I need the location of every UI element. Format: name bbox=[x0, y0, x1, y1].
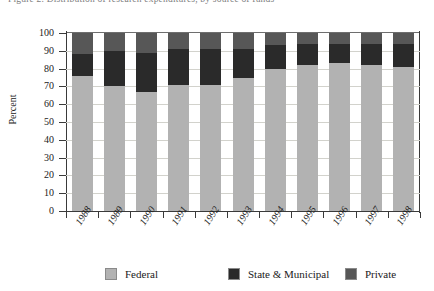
y-axis-tick-mark bbox=[59, 158, 66, 159]
bar-1994 bbox=[265, 33, 286, 211]
bar-segment-state bbox=[393, 44, 414, 67]
bar-segment-state bbox=[297, 44, 318, 65]
legend-item-federal[interactable]: Federal bbox=[105, 266, 158, 282]
bar-segment-state bbox=[200, 49, 221, 85]
bar-segment-private bbox=[297, 33, 318, 44]
x-axis-tick-mark bbox=[195, 212, 196, 218]
bar-segment-private bbox=[72, 33, 93, 54]
y-axis-tick-label: 100 bbox=[28, 28, 54, 38]
y-axis-tick-mark bbox=[59, 104, 66, 105]
legend-swatch-private-icon bbox=[345, 268, 357, 280]
bar-segment-state bbox=[168, 49, 189, 85]
x-axis-tick-mark bbox=[420, 212, 421, 218]
bar-segment-private bbox=[233, 33, 254, 49]
bar-segment-private bbox=[136, 33, 157, 53]
bar-segment-private bbox=[200, 33, 221, 49]
bar-1996 bbox=[329, 33, 350, 211]
bar-segment-federal bbox=[200, 85, 221, 211]
bar-segment-federal bbox=[361, 65, 382, 211]
bar-1998 bbox=[393, 33, 414, 211]
bar-segment-state bbox=[361, 44, 382, 65]
y-axis-tick-mark bbox=[59, 175, 66, 176]
legend-swatch-federal-icon bbox=[105, 268, 117, 280]
x-axis-tick-mark bbox=[356, 212, 357, 218]
y-axis-tick-label: 70 bbox=[28, 81, 54, 91]
plot-area bbox=[66, 33, 420, 211]
x-axis-tick-mark bbox=[130, 212, 131, 218]
bar-1997 bbox=[361, 33, 382, 211]
legend-label: Federal bbox=[125, 268, 158, 280]
x-axis-tick-mark bbox=[163, 212, 164, 218]
y-axis-tick-label: 40 bbox=[28, 135, 54, 145]
legend-label: State & Municipal bbox=[248, 268, 329, 280]
bar-segment-private bbox=[168, 33, 189, 49]
bar-segment-state bbox=[104, 51, 125, 87]
bar-segment-state bbox=[329, 44, 350, 64]
y-axis-tick-label: 60 bbox=[28, 99, 54, 109]
bar-segment-private bbox=[361, 33, 382, 44]
bar-1991 bbox=[168, 33, 189, 211]
bar-segment-private bbox=[265, 33, 286, 45]
bar-segment-federal bbox=[233, 78, 254, 212]
y-axis-tick-mark bbox=[59, 69, 66, 70]
x-axis-tick-mark bbox=[388, 212, 389, 218]
y-axis-tick-labels: 0102030405060708090100 bbox=[28, 0, 54, 291]
legend-swatch-state-icon bbox=[228, 268, 240, 280]
bar-segment-federal bbox=[168, 85, 189, 211]
bar-segment-federal bbox=[265, 69, 286, 211]
figure-container: Figure 2. Distribution of research expen… bbox=[0, 0, 434, 291]
bar-segment-state bbox=[233, 49, 254, 77]
legend-item-private[interactable]: Private bbox=[345, 266, 396, 282]
y-axis-tick-mark bbox=[59, 51, 66, 52]
y-axis-tick-label: 20 bbox=[28, 170, 54, 180]
bar-1988 bbox=[72, 33, 93, 211]
bar-1995 bbox=[297, 33, 318, 211]
bar-segment-private bbox=[329, 33, 350, 44]
bar-segment-federal bbox=[136, 92, 157, 211]
bar-segment-federal bbox=[329, 63, 350, 211]
y-axis-tick-mark bbox=[59, 140, 66, 141]
x-axis-tick-mark bbox=[259, 212, 260, 218]
y-axis-tick-mark bbox=[59, 86, 66, 87]
legend-label: Private bbox=[365, 268, 396, 280]
y-axis-tick-mark bbox=[59, 193, 66, 194]
bar-segment-federal bbox=[393, 67, 414, 211]
bar-segment-private bbox=[393, 33, 414, 44]
legend-item-state[interactable]: State & Municipal bbox=[228, 266, 329, 282]
bar-segment-federal bbox=[104, 86, 125, 211]
bar-1989 bbox=[104, 33, 125, 211]
y-axis-tick-label: 50 bbox=[28, 117, 54, 127]
y-axis-tick-mark bbox=[59, 33, 66, 34]
bar-segment-private bbox=[104, 33, 125, 51]
bar-segment-federal bbox=[72, 76, 93, 211]
x-axis-tick-mark bbox=[66, 212, 67, 218]
y-axis-tick-label: 80 bbox=[28, 64, 54, 74]
y-axis-tick-label: 10 bbox=[28, 188, 54, 198]
y-axis-tick-label: 90 bbox=[28, 46, 54, 56]
bar-1992 bbox=[200, 33, 221, 211]
y-axis-tick-mark bbox=[59, 211, 66, 212]
x-axis-tick-mark bbox=[291, 212, 292, 218]
chart-legend: FederalState & MunicipalPrivate bbox=[0, 266, 434, 286]
bar-1990 bbox=[136, 33, 157, 211]
x-axis-tick-mark bbox=[227, 212, 228, 218]
x-axis-tick-mark bbox=[98, 212, 99, 218]
bar-segment-state bbox=[265, 45, 286, 68]
bar-1993 bbox=[233, 33, 254, 211]
y-axis-label: Percent bbox=[7, 60, 18, 160]
bar-segment-federal bbox=[297, 65, 318, 211]
figure-title: Figure 2. Distribution of research expen… bbox=[8, 0, 428, 7]
y-axis-tick-label: 30 bbox=[28, 153, 54, 163]
bar-segment-state bbox=[136, 53, 157, 92]
x-axis-tick-mark bbox=[323, 212, 324, 218]
y-axis-tick-mark bbox=[59, 122, 66, 123]
y-axis-tick-label: 0 bbox=[28, 206, 54, 216]
bar-segment-state bbox=[72, 54, 93, 75]
